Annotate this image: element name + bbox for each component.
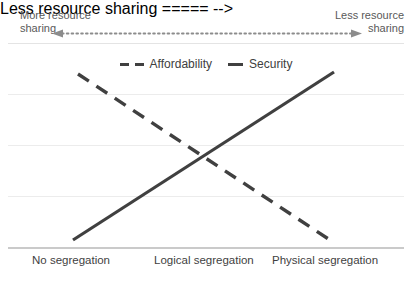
series-line-security [73,72,334,240]
x-axis-label-physical-segregation: Physical segregation [272,254,378,266]
plot-area [0,0,412,288]
x-axis-label-no-segregation: No segregation [32,254,110,266]
x-axis-labels: No segregation Logical segregation Physi… [0,254,412,274]
x-axis-label-logical-segregation: Logical segregation [154,254,254,266]
chart-figure: Less resource sharing ===== --> More res… [0,0,412,288]
gridlines [8,44,404,197]
arrow-left-icon [52,30,63,38]
arrow-right-icon [351,30,362,38]
resource-sharing-arrow [52,30,362,38]
